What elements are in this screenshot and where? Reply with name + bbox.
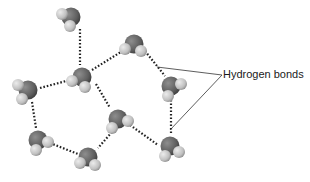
hydrogen-bond <box>40 80 70 88</box>
hydrogen-bond <box>130 125 158 145</box>
hydrogen-atom <box>122 115 134 127</box>
pointer-line <box>157 67 222 75</box>
water-molecule <box>56 8 81 33</box>
hydrogen-atom <box>106 122 118 134</box>
hydrogen-atom <box>173 146 185 158</box>
hydrogen-atom <box>119 43 131 55</box>
hydrogen-atom <box>74 157 86 169</box>
hydrogen-bond <box>145 51 165 76</box>
water-molecules <box>12 8 187 172</box>
water-molecule <box>106 110 134 135</box>
hydrogen-atom <box>89 159 101 171</box>
hydrogen-bond <box>92 50 124 70</box>
hydrogen-atom <box>79 81 91 93</box>
hydrogen-atom <box>162 90 174 102</box>
hydrogen-atom <box>64 20 76 32</box>
water-molecule <box>119 35 147 58</box>
hydrogen-bond <box>32 102 36 128</box>
water-molecule <box>66 68 92 94</box>
hydrogen-bond <box>98 132 112 148</box>
water-molecule <box>74 148 101 172</box>
hydrogen-atom <box>42 136 54 148</box>
hydrogen-bond <box>50 143 78 154</box>
water-molecule <box>12 79 38 105</box>
hydrogen-atom <box>56 8 68 20</box>
hydrogen-atom <box>175 78 187 90</box>
hydrogen-atom <box>66 75 78 87</box>
hydrogen-atom <box>16 93 28 105</box>
hydrogen-atom <box>159 150 171 162</box>
hydrogen-atom <box>30 144 42 156</box>
hydrogen-atom <box>135 45 147 57</box>
water-molecule <box>159 137 185 163</box>
hydrogen-bond-diagram <box>0 0 310 182</box>
hydrogen-bond <box>96 84 110 108</box>
hydrogen-bonds-dotted <box>32 29 171 154</box>
water-molecule <box>162 77 188 103</box>
hydrogen-bonds-label: Hydrogen bonds <box>223 68 304 80</box>
water-molecule <box>29 131 55 157</box>
hydrogen-atom <box>12 79 24 91</box>
